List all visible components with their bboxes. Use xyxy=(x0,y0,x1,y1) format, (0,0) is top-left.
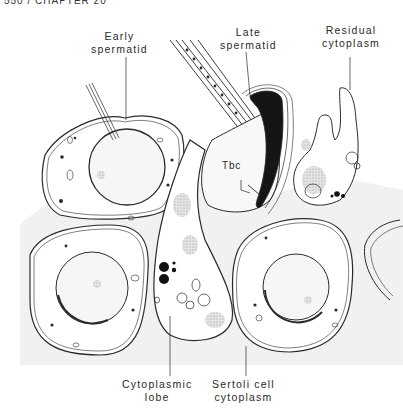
label-tbc: Tbc xyxy=(222,160,241,171)
flagella xyxy=(170,40,255,130)
early-spermatid-nucleus xyxy=(89,129,165,205)
label-late-spermatid: Late spermatid xyxy=(220,26,277,52)
label-residual-cytoplasm: Residual cytoplasm xyxy=(322,24,380,50)
spermiogenesis-illustration xyxy=(0,0,403,419)
label-cytoplasmic-lobe: Cytoplasmic lobe xyxy=(122,378,192,404)
label-early-spermatid: Early spermatid xyxy=(91,30,148,56)
label-sertoli-cytoplasm: Sertoli cell cytoplasm xyxy=(212,378,275,404)
